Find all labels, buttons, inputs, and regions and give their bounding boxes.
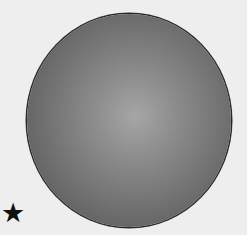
shaded-sphere <box>27 14 231 227</box>
star-icon: ★ <box>1 198 25 228</box>
